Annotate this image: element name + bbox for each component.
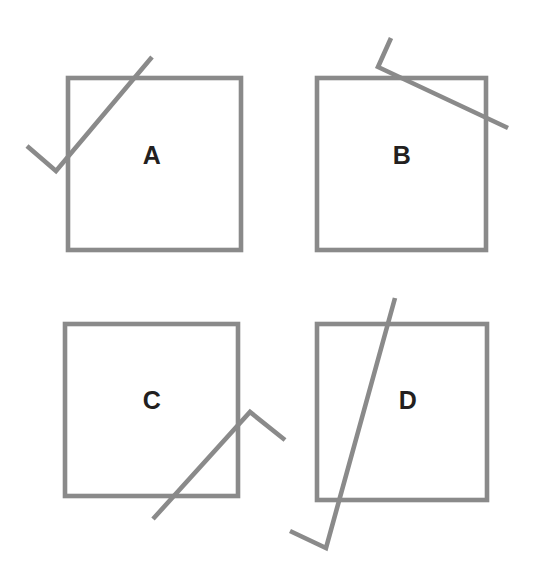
bent-line-b [378,38,508,128]
panel-label-a: A [143,143,162,168]
panel-label-c: C [143,388,162,413]
panel-label-d: D [399,388,418,413]
bent-line-a [27,57,152,171]
figure-canvas: A B C D [0,0,533,584]
panel-label-b: B [393,143,412,168]
bent-line-d [290,298,395,548]
panel-b-shapes [317,38,508,250]
panel-c-shapes [65,324,285,519]
panel-d-shapes [290,298,487,548]
bent-line-c [153,412,285,519]
figure-svg [0,0,533,584]
panel-a-shapes [27,57,241,250]
